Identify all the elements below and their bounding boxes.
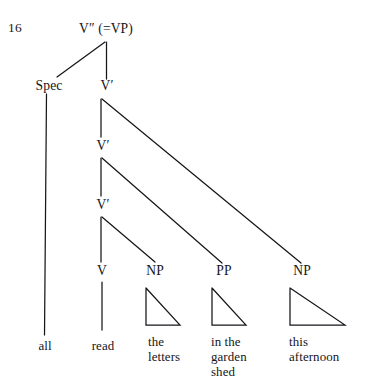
triangle-np1 [146, 288, 180, 325]
leaf-v: read [92, 339, 115, 354]
leaf-pp: in the garden shed [211, 335, 247, 380]
branch-root-to-spec [57, 42, 105, 77]
leaf-v-line-1: read [92, 339, 115, 354]
leaf-np-2: this afternoon [289, 335, 339, 365]
leaf-spec: all [38, 339, 51, 354]
leaf-pp-line-2: garden [211, 350, 247, 365]
branch-spec-to-all [45, 94, 47, 335]
tree-branch-lines [0, 0, 369, 382]
branch-vbar2-to-pp [102, 158, 222, 263]
leaf-spec-line-1: all [38, 339, 51, 354]
node-label-np-2: NP [293, 264, 311, 278]
figure-syntax-tree: 16 V [0, 0, 369, 382]
leaf-np-2-line-2: afternoon [289, 350, 339, 365]
node-label-vbar-2: V′ [97, 139, 110, 153]
branch-vbar3-to-np1 [102, 217, 155, 262]
node-label-np-1: NP [146, 264, 164, 278]
leaf-pp-line-3: shed [211, 365, 247, 380]
leaf-np-1: the letters [148, 335, 180, 365]
node-label-vbar-1: V′ [101, 79, 114, 93]
leaf-np-1-line-2: letters [148, 350, 180, 365]
triangle-np2 [290, 288, 345, 325]
triangle-pp [212, 288, 246, 325]
leaf-np-2-line-1: this [289, 335, 339, 350]
node-label-spec: Spec [36, 79, 63, 93]
node-label-root: V″ (=VP) [79, 22, 133, 36]
node-label-v: V [97, 264, 107, 278]
node-label-pp: PP [216, 264, 231, 278]
node-label-vbar-3: V′ [97, 198, 110, 212]
leaf-np-1-line-1: the [148, 335, 180, 350]
branch-vbar1-to-np2 [102, 99, 301, 263]
leaf-pp-line-1: in the [211, 335, 247, 350]
